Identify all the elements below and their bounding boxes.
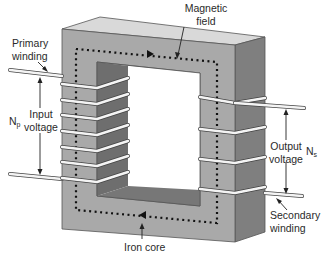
label-primary-winding: Primary winding (12, 38, 48, 62)
output-voltage-text-2: voltage (266, 154, 306, 165)
label-output-voltage: Output voltage (266, 141, 306, 165)
output-voltage-text-1: Output (266, 141, 306, 152)
ns-symbol: N (306, 145, 314, 157)
secondary-winding-text-2: winding (270, 223, 320, 234)
label-magnetic-field: Magnetic field (176, 3, 236, 27)
label-ns: Ns (306, 146, 317, 160)
ns-subscript: s (314, 151, 318, 158)
core-side-face (235, 37, 265, 242)
np-subscript: p (17, 121, 21, 128)
iron-core-text: Iron core (124, 241, 165, 253)
secondary-winding-text-1: Secondary (270, 210, 320, 221)
label-input-voltage: Input voltage (22, 109, 60, 133)
primary-winding-text-1: Primary (12, 38, 48, 49)
label-secondary-winding: Secondary winding (270, 210, 320, 234)
magnetic-field-text-1: Magnetic (176, 3, 236, 14)
primary-winding-text-2: winding (12, 51, 48, 62)
label-iron-core: Iron core (124, 242, 165, 253)
core-window (128, 66, 200, 190)
input-voltage-text-2: voltage (22, 122, 60, 133)
magnetic-field-text-2: field (176, 16, 236, 27)
label-np: Np (9, 116, 21, 130)
input-voltage-text-1: Input (22, 109, 60, 120)
np-symbol: N (9, 115, 17, 127)
